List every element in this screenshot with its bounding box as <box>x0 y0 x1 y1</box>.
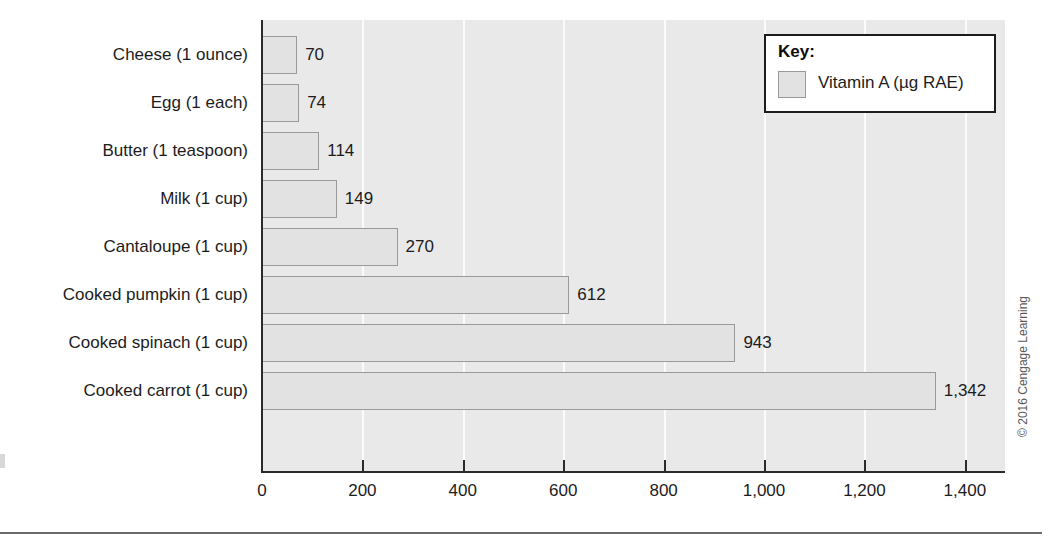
bar[interactable] <box>262 84 299 122</box>
bar[interactable] <box>262 132 319 170</box>
x-tick-label: 800 <box>649 481 677 501</box>
x-tick-label: 400 <box>449 481 477 501</box>
bar[interactable] <box>262 276 569 314</box>
bottom-divider-rule <box>0 532 1042 534</box>
legend-title: Key: <box>778 42 815 62</box>
category-label: Cantaloupe (1 cup) <box>103 237 248 257</box>
bar-value-label: 70 <box>305 45 324 65</box>
x-tick-label: 1,200 <box>843 481 886 501</box>
legend-key-box: Key: Vitamin A (µg RAE) <box>764 34 996 113</box>
bar-value-label: 270 <box>406 237 434 257</box>
category-label: Cooked spinach (1 cup) <box>68 333 248 353</box>
bar[interactable] <box>262 324 735 362</box>
bar[interactable] <box>262 180 337 218</box>
x-tick-label: 0 <box>257 481 266 501</box>
category-label: Cooked pumpkin (1 cup) <box>63 285 248 305</box>
page-margin-artifact <box>0 454 5 468</box>
copyright-notice: © 2016 Cengage Learning <box>1016 296 1030 437</box>
x-tick-label: 1,000 <box>743 481 786 501</box>
legend-color-swatch <box>778 71 806 98</box>
x-tick-mark <box>563 460 565 471</box>
x-tick-mark <box>764 460 766 471</box>
bar-value-label: 943 <box>743 333 771 353</box>
bar[interactable] <box>262 228 398 266</box>
category-label: Butter (1 teaspoon) <box>102 141 248 161</box>
category-label: Egg (1 each) <box>151 93 248 113</box>
category-label: Cooked carrot (1 cup) <box>84 381 248 401</box>
x-tick-mark <box>664 460 666 471</box>
y-axis-line <box>261 20 263 472</box>
x-tick-mark <box>463 460 465 471</box>
bar-value-label: 74 <box>307 93 326 113</box>
bar-value-label: 1,342 <box>944 381 987 401</box>
bar-value-label: 612 <box>577 285 605 305</box>
x-tick-label: 200 <box>348 481 376 501</box>
x-tick-mark <box>965 460 967 471</box>
x-tick-label: 600 <box>549 481 577 501</box>
category-label: Cheese (1 ounce) <box>113 45 248 65</box>
bar-value-label: 114 <box>327 141 354 161</box>
legend-series-label: Vitamin A (µg RAE) <box>818 73 964 93</box>
bar[interactable] <box>262 372 936 410</box>
category-label: Milk (1 cup) <box>160 189 248 209</box>
vitamin-a-bar-chart-figure: Cheese (1 ounce)Egg (1 each)Butter (1 te… <box>0 0 1055 545</box>
bar[interactable] <box>262 36 297 74</box>
x-tick-mark <box>864 460 866 471</box>
x-axis-line <box>261 471 1005 473</box>
bar-value-label: 149 <box>345 189 373 209</box>
x-tick-mark <box>362 460 364 471</box>
x-tick-label: 1,400 <box>944 481 987 501</box>
